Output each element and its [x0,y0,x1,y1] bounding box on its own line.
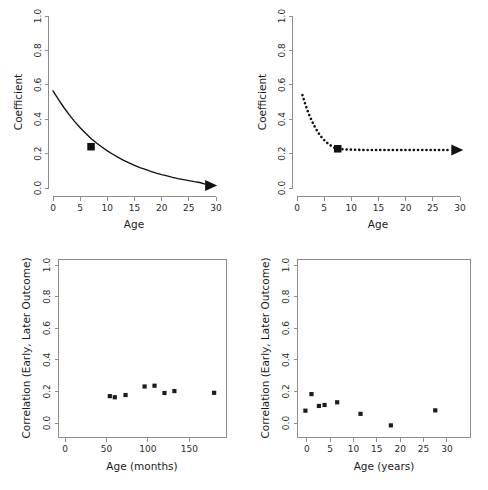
arrow-head-icon [451,144,463,155]
y-axis-title: Coefficient [12,74,24,130]
x-tick-label: 150 [181,444,198,454]
y-axis-ticks [45,16,49,188]
scatter-point [152,384,156,388]
y-tick-label: 0.6 [33,77,43,92]
x-tick-label: 30 [454,203,466,213]
x-tick-label: 25 [418,444,429,454]
scatter-point-group [108,384,217,400]
y-tick-label: 0.2 [42,384,52,398]
x-tick-label: 10 [346,203,358,213]
x-axis-title: Age [124,218,144,230]
square-marker [87,143,95,151]
x-tick-label: 0 [294,203,300,213]
x-tick-label: 0 [62,444,68,454]
y-tick-label: 0.4 [33,112,43,127]
y-tick-label: 0.0 [33,181,43,196]
x-axis-title: Age [368,218,388,230]
panel-top-right: 0.0 0.2 0.4 0.6 0.8 1.0 Coefficient 0 5 [244,0,488,245]
x-tick-label: 5 [321,203,327,213]
y-tick-label: 0.2 [33,146,43,160]
y-tick-label: 0.0 [277,181,287,196]
y-tick-label: 0.8 [42,289,52,304]
y-axis-ticks [289,16,293,188]
scatter-point [172,389,176,393]
decay-curve [53,91,205,184]
scatter-point-group [303,392,437,427]
x-tick-label: 10 [102,203,114,213]
x-tick-label: 30 [441,444,453,454]
y-tick-label: 0.8 [277,43,287,58]
y-tick-label: 0.6 [42,321,52,336]
y-tick-label: 0.4 [277,112,287,127]
scatter-point [358,412,362,416]
y-axis-tick-labels: 0.0 0.2 0.4 0.6 0.8 1.0 [42,258,52,431]
x-tick-label: 50 [101,444,113,454]
x-axis-tick-labels: 0 50 100 150 [62,444,198,454]
scatter-point [317,404,321,408]
scatter-point [113,395,117,399]
y-axis-tick-labels: 0.0 0.2 0.4 0.6 0.8 1.0 [277,9,287,196]
scatter-point [322,403,326,407]
panel-bottom-left-plot: 0.0 0.2 0.4 0.6 0.8 1.0 Correlation (Ear… [0,245,244,490]
scatter-point [303,409,307,413]
x-axis-tick-labels: 0 5 10 15 20 25 30 [304,444,453,454]
y-tick-label: 1.0 [33,9,43,24]
y-axis-title: Coefficient [256,74,268,130]
x-axis-ticks [307,438,447,442]
panel-top-right-plot: 0.0 0.2 0.4 0.6 0.8 1.0 Coefficient 0 5 [244,0,488,245]
curve-marker-group [87,143,95,151]
panel-bottom-left: 0.0 0.2 0.4 0.6 0.8 1.0 Correlation (Ear… [0,245,244,490]
x-tick-label: 20 [394,444,406,454]
panel-top-left-plot: 0.0 0.2 0.4 0.6 0.8 1.0 Coefficient [0,0,244,245]
y-tick-label: 1.0 [42,258,52,273]
scatter-point [108,394,112,398]
y-axis-tick-labels: 0.0 0.2 0.4 0.6 0.8 1.0 [33,9,43,196]
y-tick-label: 0.4 [42,352,52,367]
y-tick-label: 0.6 [277,77,287,92]
y-tick-label: 0.0 [42,416,52,431]
y-axis-tick-labels: 0.0 0.2 0.4 0.6 0.8 1.0 [281,258,291,431]
y-tick-label: 1.0 [277,9,287,24]
panel-top-left: 0.0 0.2 0.4 0.6 0.8 1.0 Coefficient [0,0,244,245]
curve-marker-group [334,145,342,153]
x-tick-label: 20 [156,203,168,213]
y-tick-label: 0.8 [33,43,43,58]
scatter-point [335,400,339,404]
x-axis-tick-labels: 0 5 10 15 20 25 30 [294,203,466,213]
scatter-point [142,384,146,388]
x-tick-label: 10 [348,444,360,454]
y-axis-ticks [55,265,59,423]
square-marker [334,145,342,153]
y-tick-label: 0.8 [281,289,291,304]
x-tick-label: 5 [77,203,83,213]
scatter-point [123,393,127,397]
x-tick-label: 15 [371,444,382,454]
arrow-head-shape [451,144,463,155]
y-axis-ticks [294,265,298,423]
x-tick-label: 0 [50,203,56,213]
x-tick-label: 15 [129,203,140,213]
x-axis-ticks [65,438,189,442]
x-axis-ticks [53,197,216,201]
scatter-point [389,423,393,427]
figure-panel-grid: 0.0 0.2 0.4 0.6 0.8 1.0 Coefficient [0,0,488,490]
y-tick-label: 0.4 [281,352,291,367]
y-tick-label: 0.2 [277,146,287,160]
scatter-point [212,391,216,395]
x-axis-title: Age (years) [354,460,415,472]
x-tick-label: 25 [427,203,438,213]
scatter-point [162,391,166,395]
x-tick-label: 30 [210,203,222,213]
x-tick-label: 5 [327,444,333,454]
plot-box-frame [298,260,471,438]
y-tick-label: 0.0 [281,416,291,431]
arrow-head-shape [205,180,217,191]
x-tick-label: 20 [400,203,412,213]
y-axis-title: Correlation (Early, Later Outcome) [20,257,32,438]
panel-bottom-right-plot: 0.0 0.2 0.4 0.6 0.8 1.0 Correlation (Ear… [244,245,488,490]
scatter-point [433,408,437,412]
y-tick-label: 0.6 [281,321,291,336]
x-axis-ticks [297,197,460,201]
panel-bottom-right: 0.0 0.2 0.4 0.6 0.8 1.0 Correlation (Ear… [244,245,488,490]
x-axis-title: Age (months) [106,460,177,472]
